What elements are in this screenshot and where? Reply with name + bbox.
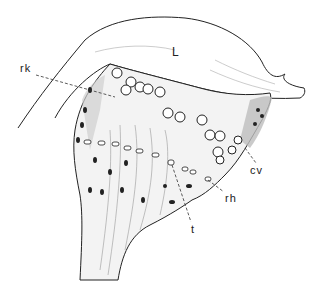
label-t: t — [191, 224, 195, 235]
anatomical-illustration — [0, 0, 321, 294]
label-rh: rh — [225, 193, 237, 204]
label-cv: cv — [250, 165, 263, 176]
epithelium — [74, 64, 272, 280]
label-L: L — [172, 46, 180, 58]
label-rk: rk — [20, 63, 31, 74]
